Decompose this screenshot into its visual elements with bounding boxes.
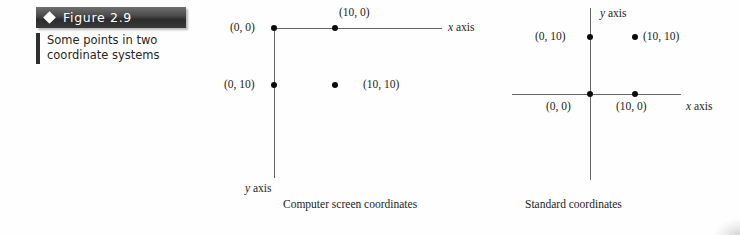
diagram-caption-screen: Computer screen coordinates	[283, 198, 417, 210]
point-0-0	[587, 91, 593, 97]
diagram-caption-standard: Standard coordinates	[525, 198, 622, 210]
diagram-standard-coordinates: (0, 10) (10, 10) (0, 0) (10, 0) y axis x…	[480, 0, 730, 235]
diagram-computer-screen-coordinates: (0, 0) (10, 0) (0, 10) (10, 10) x axis y…	[210, 0, 470, 235]
figure-caption-row: Some points in two coordinate systems	[36, 33, 186, 64]
y-axis-label-word: axis	[250, 182, 271, 194]
label-point-0-10: (0, 10)	[535, 30, 566, 42]
figure-label-block: Figure 2.9 Some points in two coordinate…	[36, 7, 186, 64]
figure-page: Figure 2.9 Some points in two coordinate…	[0, 0, 740, 235]
figure-title: Figure 2.9	[63, 10, 132, 25]
x-axis-label-word: axis	[691, 100, 712, 112]
x-axis-line	[512, 94, 681, 95]
label-point-10-0: (10, 0)	[339, 6, 370, 18]
x-axis-label: x axis	[686, 100, 713, 112]
figure-header-bar: Figure 2.9	[36, 7, 186, 28]
x-axis-label: x axis	[448, 21, 475, 33]
y-axis-label: y axis	[245, 182, 272, 194]
point-10-10	[332, 82, 338, 88]
x-axis-label-word: axis	[453, 21, 474, 33]
point-0-0	[271, 25, 277, 31]
y-axis-label-word: axis	[605, 7, 626, 19]
point-0-10	[587, 34, 593, 40]
label-point-0-10: (0, 10)	[224, 78, 255, 90]
y-axis-label: y axis	[600, 7, 627, 19]
label-point-0-0: (0, 0)	[546, 100, 571, 112]
y-axis-line	[274, 28, 275, 178]
point-10-10	[632, 34, 638, 40]
x-axis-line	[274, 28, 442, 29]
point-0-10	[271, 82, 277, 88]
label-point-10-10: (10, 10)	[643, 30, 679, 42]
diamond-icon	[43, 11, 56, 24]
caption-accent-bar	[36, 33, 40, 64]
label-point-0-0: (0, 0)	[230, 21, 255, 33]
label-point-10-10: (10, 10)	[363, 78, 399, 90]
figure-caption: Some points in two coordinate systems	[47, 33, 160, 62]
point-10-0	[332, 25, 338, 31]
point-10-0	[632, 91, 638, 97]
label-point-10-0: (10, 0)	[616, 100, 647, 112]
